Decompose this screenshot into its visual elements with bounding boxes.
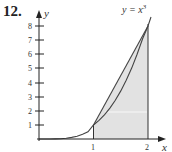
svg-text:8: 8 <box>28 22 32 31</box>
y-axis-label: y <box>43 7 49 19</box>
svg-text:6: 6 <box>28 50 32 59</box>
figure: 12. y x 1 <box>0 0 172 152</box>
svg-text:2: 2 <box>28 107 32 116</box>
chart: y x 1 2 3 4 5 6 7 8 1 2 <box>0 0 172 152</box>
svg-text:7: 7 <box>28 36 32 45</box>
svg-text:1: 1 <box>91 143 95 152</box>
svg-text:2: 2 <box>145 143 149 152</box>
curve-label: y = x3 <box>121 3 147 15</box>
svg-text:3: 3 <box>28 93 32 102</box>
svg-text:5: 5 <box>28 64 32 73</box>
shaded-region <box>94 26 149 139</box>
svg-text:1: 1 <box>28 121 32 130</box>
svg-text:4: 4 <box>28 79 32 88</box>
y-tick-labels: 1 2 3 4 5 6 7 8 <box>28 22 32 130</box>
y-axis-arrow-icon <box>36 10 42 18</box>
x-axis-label: x <box>161 141 167 152</box>
problem-number: 12. <box>3 3 22 20</box>
x-tick-labels: 1 2 <box>91 143 149 152</box>
